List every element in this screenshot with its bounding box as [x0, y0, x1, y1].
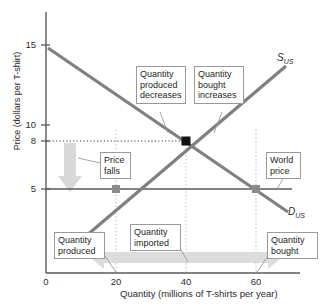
y-tick-label-8: 8	[16, 135, 36, 146]
x-axis-label: Quantity (millions of T-shirts per year)	[120, 288, 278, 299]
callout-world-price: World price	[266, 152, 301, 179]
callout-quantity-produced-decreases: Quantity produced decreases	[136, 66, 186, 104]
x-tick-label-40: 40	[174, 276, 198, 287]
equilibrium-marker	[182, 137, 191, 146]
leader-price-falls	[78, 158, 100, 163]
callout-line-1: Quantity	[198, 69, 240, 80]
callout-quantity-imported: Quantity imported	[130, 224, 181, 251]
callout-quantity-bought: Quantity bought	[267, 232, 318, 259]
y-axis-label: Price (dollars per T-shirt)	[12, 36, 22, 166]
demand-curve-label: DUS	[288, 206, 305, 219]
y-tick-label-10: 10	[16, 119, 36, 130]
callout-line-1: World	[270, 155, 297, 166]
demand-curve-label-sub: US	[295, 212, 305, 219]
price-falls-arrow	[58, 143, 82, 192]
callout-line-2: produced	[58, 246, 101, 257]
supply-curve-label-text: S	[277, 52, 284, 63]
callout-line-1: Quantity	[58, 235, 101, 246]
callout-line-2: bought	[198, 80, 240, 91]
x-tick-label-60: 60	[244, 276, 268, 287]
x-tick-label-20: 20	[104, 276, 128, 287]
callout-line-1: Quantity	[140, 69, 182, 80]
domestic-consumption-marker	[252, 185, 260, 193]
domestic-production-marker	[112, 185, 120, 193]
callout-line-2: price	[270, 166, 297, 177]
callout-line-2: falls	[104, 166, 127, 177]
callout-line-2: bought	[271, 246, 314, 257]
callout-line-3: decreases	[140, 90, 182, 101]
callout-price-falls: Price falls	[100, 152, 131, 179]
x-tick-label-0: 0	[34, 276, 58, 287]
supply-curve-label-sub: US	[284, 58, 294, 65]
supply-demand-chart: Price (dollars per T-shirt) 15 10 8 5 0 …	[0, 0, 322, 307]
callout-line-1: Quantity	[134, 227, 177, 238]
callout-line-2: imported	[134, 238, 177, 249]
callout-line-1: Price	[104, 155, 127, 166]
callout-line-1: Quantity	[271, 235, 314, 246]
callout-line-2: produced	[140, 80, 182, 91]
callout-quantity-bought-increases: Quantity bought increases	[194, 66, 244, 104]
supply-curve-label: SUS	[277, 52, 293, 65]
callout-line-3: increases	[198, 90, 240, 101]
y-tick-label-5: 5	[16, 183, 36, 194]
leader-produced-decreases	[160, 112, 168, 133]
callout-quantity-produced: Quantity produced	[54, 232, 105, 259]
y-tick-label-15: 15	[16, 39, 36, 50]
